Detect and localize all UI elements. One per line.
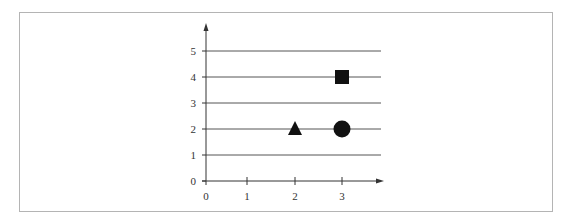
y-axis-arrow-icon <box>204 23 209 31</box>
scatter-chart: 0 1 2 3 4 5 0 1 2 3 <box>0 0 566 222</box>
svg-text:2: 2 <box>191 123 197 135</box>
circle-marker-icon <box>334 121 351 138</box>
triangle-marker-icon <box>288 121 302 135</box>
svg-text:0: 0 <box>191 175 197 187</box>
x-axis <box>202 177 378 185</box>
svg-text:4: 4 <box>191 71 197 83</box>
svg-text:1: 1 <box>191 149 197 161</box>
y-axis <box>202 28 206 185</box>
svg-text:3: 3 <box>339 190 345 202</box>
svg-text:0: 0 <box>203 190 209 202</box>
svg-text:2: 2 <box>292 190 298 202</box>
y-tick-labels: 0 1 2 3 4 5 <box>191 45 197 187</box>
y-gridlines <box>206 51 381 155</box>
x-axis-arrow-icon <box>376 179 384 184</box>
square-marker-icon <box>335 70 349 84</box>
svg-text:1: 1 <box>244 190 250 202</box>
svg-text:5: 5 <box>191 45 197 57</box>
svg-text:3: 3 <box>191 97 197 109</box>
x-tick-labels: 0 1 2 3 <box>203 190 345 202</box>
